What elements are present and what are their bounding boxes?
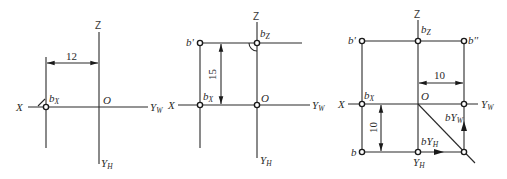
x-axis-label: X: [167, 99, 176, 111]
x-axis-label: X: [337, 98, 346, 110]
z-axis-label: Z: [414, 9, 420, 20]
point-b: [359, 149, 364, 154]
point-bz: [254, 40, 259, 45]
origin-label: O: [103, 94, 111, 106]
origin-label: O: [261, 92, 269, 104]
yh-axis-label: YH: [260, 154, 272, 168]
point-bx: [359, 101, 364, 106]
point-bz: [415, 38, 420, 43]
point-b-prime-label: b': [348, 34, 357, 46]
point-byw-label: bYW: [445, 111, 464, 125]
point-bz-label: bZ: [421, 23, 432, 37]
point-bx-label: bX: [49, 92, 60, 106]
dimension-10-horizontal-label: 10: [434, 69, 446, 81]
panel-3: Z X O b' bZ b'' bX b bYW bYH 10 10 YW YH: [337, 9, 494, 170]
x-axis-label: X: [15, 101, 24, 113]
panel-2: Z X O b' bZ bX 15 YW YH: [167, 11, 325, 168]
point-corner: [461, 149, 466, 154]
yw-axis-label: YW: [150, 101, 163, 115]
point-b-prime: [359, 38, 364, 43]
point-byh: [415, 149, 420, 154]
direction-arrow-right: [434, 149, 444, 155]
origin-label: O: [421, 90, 429, 102]
dimension-10-vertical-label: 10: [367, 122, 379, 134]
z-axis-label: Z: [253, 11, 259, 22]
point-byw: [461, 101, 466, 106]
z-axis-label: Z: [95, 20, 101, 31]
yh-axis-label: YH: [413, 156, 425, 170]
projection-diagram: Z X O 12 bX YW YH Z X O b' bZ bX 15 YW Y…: [0, 0, 507, 179]
point-b-label: b: [351, 146, 357, 158]
point-bz-label: bZ: [260, 27, 271, 41]
point-bx: [197, 102, 202, 107]
point-b-prime-label: b': [186, 36, 195, 48]
point-bx-label: bX: [364, 89, 375, 103]
point-bx-label: bX: [203, 90, 214, 104]
panel-1: Z X O 12 bX YW YH: [15, 20, 163, 171]
point-byh-label: bYH: [421, 135, 439, 149]
point-bx: [43, 104, 48, 109]
yh-axis-label: YH: [101, 157, 113, 171]
yw-axis-label: YW: [481, 98, 494, 112]
point-b-prime: [197, 40, 202, 45]
yw-axis-label: YW: [312, 99, 325, 113]
point-b-double-prime: [461, 38, 466, 43]
dimension-12-label: 12: [66, 50, 77, 62]
point-origin: [254, 102, 259, 107]
dimension-15-label: 15: [206, 69, 218, 81]
point-b-double-prime-label: b'': [468, 34, 479, 46]
